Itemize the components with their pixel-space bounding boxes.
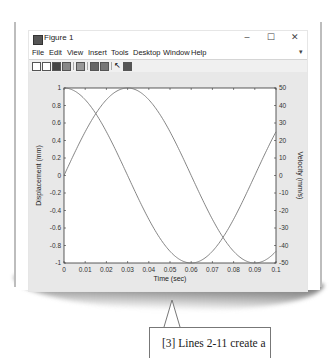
insert-legend-icon[interactable] xyxy=(100,62,109,71)
x-tick-label: 0.03 xyxy=(121,266,134,273)
x-tick-label: 0.05 xyxy=(164,266,177,273)
y-right-tick-label: -20 xyxy=(279,207,289,214)
y-tick-label: -0.4 xyxy=(50,207,62,214)
new-figure-icon[interactable] xyxy=(32,62,41,71)
y-tick-label: 0.4 xyxy=(52,137,61,144)
y-tick-label: -0.8 xyxy=(50,242,62,249)
y-right-tick-label: -40 xyxy=(279,242,289,249)
callout-text: [3] Lines 2-11 create a xyxy=(162,337,266,349)
y-tick-label: -0.2 xyxy=(50,189,62,196)
menu-file[interactable]: File xyxy=(32,48,44,57)
x-tick-label: 0.1 xyxy=(271,266,280,273)
show-plot-tools-icon[interactable] xyxy=(123,62,132,71)
maximize-button[interactable]: ☐ xyxy=(263,32,279,42)
callout-box: [3] Lines 2-11 create a xyxy=(149,327,271,358)
y-right-tick-label: 10 xyxy=(279,154,287,161)
open-file-icon[interactable] xyxy=(42,62,51,71)
print-icon[interactable] xyxy=(62,62,71,71)
y-right-axis-label: Velocity (mm/s) xyxy=(296,152,304,200)
menu-view[interactable]: View xyxy=(67,48,83,57)
menu-insert[interactable]: Insert xyxy=(88,48,107,57)
y-tick-label: -1 xyxy=(55,259,61,266)
frame-right-edge xyxy=(320,22,322,287)
menu-desktop[interactable]: Desktop xyxy=(133,48,161,57)
x-tick-label: 0.04 xyxy=(142,266,155,273)
x-tick-label: 0.02 xyxy=(100,266,113,273)
menu-tools[interactable]: Tools xyxy=(111,48,129,57)
x-tick-label: 0.08 xyxy=(227,266,240,273)
pointer-icon[interactable]: ↖ xyxy=(114,62,121,69)
insert-colorbar-icon[interactable] xyxy=(90,62,99,71)
save-icon[interactable] xyxy=(52,62,61,71)
y-right-tick-label: 50 xyxy=(279,84,287,91)
menu-edit[interactable]: Edit xyxy=(49,48,62,57)
y-tick-label: 0.8 xyxy=(52,102,61,109)
y-tick-label: 0.6 xyxy=(52,119,61,126)
toolbar-separator xyxy=(111,62,112,70)
window-title: Figure 1 xyxy=(44,33,73,42)
toolbar-separator xyxy=(87,62,88,70)
title-bar[interactable]: Figure 1 – ☐ ✕ xyxy=(29,31,307,47)
figure-toolbar: ↖ xyxy=(29,59,307,73)
x-axis-label: Time (sec) xyxy=(154,275,187,283)
x-tick-label: 0.07 xyxy=(206,266,219,273)
matlab-figure-icon xyxy=(33,35,43,45)
menu-bar: File Edit View Insert Tools Desktop Wind… xyxy=(29,47,307,59)
figure-canvas: 00.010.020.030.040.050.060.070.080.090.1… xyxy=(29,72,307,291)
y-right-tick-label: 20 xyxy=(279,137,287,144)
y-right-tick-label: 40 xyxy=(279,102,287,109)
menu-window[interactable]: Window xyxy=(163,48,190,57)
zoom-icon[interactable] xyxy=(76,62,85,71)
toolbar-separator xyxy=(73,62,74,70)
y-tick-label: 1 xyxy=(57,84,61,91)
plot-axes[interactable]: 00.010.020.030.040.050.060.070.080.090.1… xyxy=(29,72,307,291)
y-axis-label: Displacement (mm) xyxy=(35,145,43,206)
x-tick-label: 0 xyxy=(62,266,66,273)
y-right-tick-label: -50 xyxy=(279,259,289,266)
x-tick-label: 0.09 xyxy=(248,266,261,273)
x-tick-label: 0.06 xyxy=(185,266,198,273)
y-tick-label: 0 xyxy=(57,172,61,179)
y-right-tick-label: -30 xyxy=(279,224,289,231)
y-tick-label: 0.2 xyxy=(52,154,61,161)
y-right-tick-label: 30 xyxy=(279,119,287,126)
figure-window: Figure 1 – ☐ ✕ File Edit View Insert Too… xyxy=(28,30,308,292)
y-right-tick-label: 0 xyxy=(279,172,283,179)
y-right-tick-label: -10 xyxy=(279,189,289,196)
x-tick-label: 0.01 xyxy=(79,266,92,273)
close-button[interactable]: ✕ xyxy=(287,32,303,42)
y-tick-label: -0.6 xyxy=(50,224,62,231)
menu-help[interactable]: Help xyxy=(191,48,206,57)
menu-overflow-icon[interactable]: ▾ xyxy=(299,48,303,56)
minimize-button[interactable]: – xyxy=(239,32,255,42)
